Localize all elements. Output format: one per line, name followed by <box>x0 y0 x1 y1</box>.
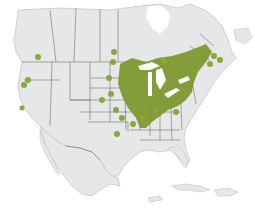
cuba <box>172 184 210 192</box>
hispaniola <box>214 188 238 196</box>
newfoundland <box>234 28 252 44</box>
range-map <box>0 0 255 216</box>
jamaica <box>148 196 162 202</box>
north-america-map <box>0 0 255 216</box>
